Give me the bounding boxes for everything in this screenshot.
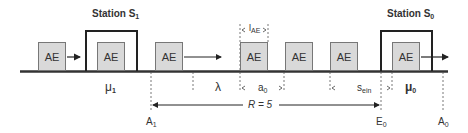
r-distance-label: R = 5 xyxy=(248,99,272,110)
conveyor-diagram: Station S1 Station S0 AE AE AE AE AE AE … xyxy=(0,0,468,133)
ae-unit: AE xyxy=(392,42,420,71)
ae-unit: AE xyxy=(155,42,183,71)
point-a0-label: A0 xyxy=(438,116,449,128)
point-a1-label: A1 xyxy=(146,116,157,128)
point-e0-label: E0 xyxy=(376,116,387,128)
ae-unit: AE xyxy=(38,42,66,71)
s-ein-label: sein xyxy=(357,82,371,94)
ae-unit: AE xyxy=(285,42,313,71)
ae-unit: AE xyxy=(330,42,358,71)
mu1-label: μ1 xyxy=(105,80,116,94)
l-ae-label: lAE xyxy=(249,23,260,34)
mu0-label: μ0 xyxy=(405,80,416,94)
ae-unit: AE xyxy=(240,42,268,71)
ae-unit: AE xyxy=(97,42,125,71)
station-s1-label: Station S1 xyxy=(92,8,139,20)
lambda-label: λ xyxy=(215,80,221,94)
a0-gap-label: a0 xyxy=(258,82,267,94)
station-s0-label: Station S0 xyxy=(387,8,434,20)
